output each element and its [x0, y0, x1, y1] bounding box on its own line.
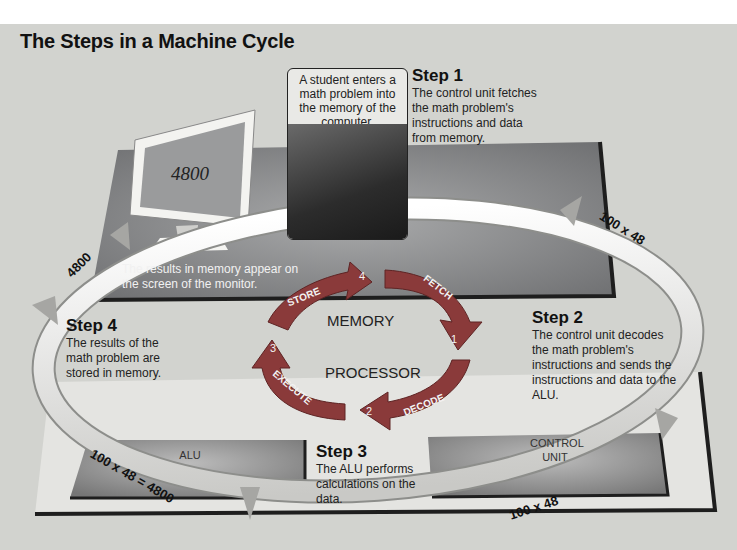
intro-caption: A student enters a math problem into the… — [288, 69, 407, 121]
control-unit-label: CONTROL UNIT — [530, 436, 580, 464]
svg-text:4800: 4800 — [171, 163, 210, 184]
step-3-text: The ALU performs calculations on the dat… — [316, 462, 415, 506]
monitor-caption: The results in memory appear on the scre… — [122, 262, 302, 292]
processor-label: PROCESSOR — [325, 364, 421, 381]
step-2: Step 2 The control unit decodes the math… — [532, 308, 682, 403]
step-1-heading: Step 1 — [412, 66, 537, 86]
svg-text:3: 3 — [270, 342, 276, 354]
step-2-text: The control unit decodes the math proble… — [532, 328, 676, 402]
step-4: Step 4 The results of the math problem a… — [66, 316, 186, 381]
step-1: Step 1 The control unit fetches the math… — [412, 66, 537, 146]
step-3-heading: Step 3 — [316, 442, 426, 462]
student-keyboard-photo-card: A student enters a math problem into the… — [287, 68, 408, 240]
page-title: The Steps in a Machine Cycle — [20, 30, 295, 53]
step-1-text: The control unit fetches the math proble… — [412, 86, 537, 145]
keyboard-photo — [288, 124, 407, 240]
svg-text:4: 4 — [359, 270, 365, 282]
step-4-text: The results of the math problem are stor… — [66, 336, 161, 380]
alu-label: ALU — [170, 448, 210, 462]
step-4-heading: Step 4 — [66, 316, 186, 336]
step-3: Step 3 The ALU performs calculations on … — [316, 442, 426, 507]
memory-label: MEMORY — [327, 312, 394, 329]
pipe-arrow-icon — [32, 296, 58, 325]
svg-text:2: 2 — [366, 405, 372, 417]
svg-text:4800: 4800 — [63, 249, 94, 280]
svg-text:1: 1 — [451, 333, 457, 345]
step-2-heading: Step 2 — [532, 308, 682, 328]
